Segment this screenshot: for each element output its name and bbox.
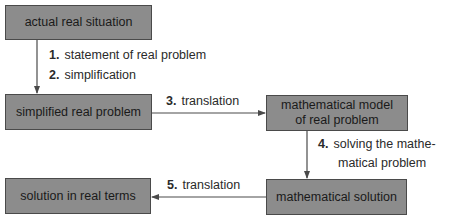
step-text: statement of real problem — [64, 48, 206, 62]
step-text: simplification — [64, 68, 136, 82]
step-number: 3. — [166, 94, 176, 108]
step-text: translation — [181, 94, 239, 108]
node-actual-real-situation: actual real situation — [5, 5, 152, 40]
step-number: 2. — [49, 68, 59, 82]
step-4-label-line2: matical problem — [338, 156, 426, 171]
step-number: 4. — [318, 137, 328, 151]
node-mathematical-model: mathematical model of real problem — [266, 95, 408, 131]
node-label: simplified real problem — [16, 105, 141, 120]
step-text-line1: solving the mathe- — [333, 137, 435, 151]
node-simplified-real-problem: simplified real problem — [5, 94, 152, 130]
step-2-label: 2.simplification — [49, 68, 136, 83]
step-3-label: 3.translation — [166, 94, 239, 109]
step-number: 5. — [167, 178, 177, 192]
step-4-label: 4.solving the mathe- — [318, 137, 436, 152]
step-text: translation — [182, 178, 240, 192]
step-number: 1. — [49, 48, 59, 62]
node-label: mathematical solution — [276, 190, 397, 205]
step-1-label: 1.statement of real problem — [49, 48, 206, 63]
node-label: solution in real terms — [20, 189, 135, 204]
step-text-line2: matical problem — [338, 156, 426, 170]
step-5-label: 5.translation — [167, 178, 240, 193]
node-solution-in-real-terms: solution in real terms — [5, 178, 151, 214]
node-label-line2: of real problem — [295, 113, 378, 128]
node-label: actual real situation — [25, 15, 133, 30]
node-mathematical-solution: mathematical solution — [266, 179, 407, 215]
node-label-line1: mathematical model — [281, 98, 393, 113]
